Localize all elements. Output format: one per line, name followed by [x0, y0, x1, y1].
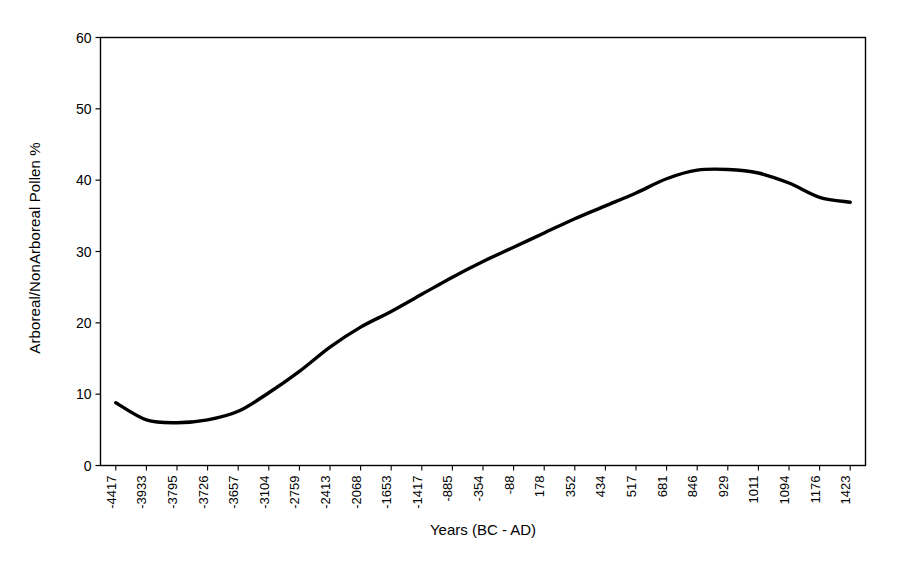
plot-area: 0102030405060 -4417-3933-3795-3726-3657-… [0, 0, 897, 568]
plot-frame [101, 38, 866, 466]
x-tick-label: 681 [655, 476, 670, 498]
x-tick-label: 517 [624, 476, 639, 498]
x-tick-label: -2413 [318, 476, 333, 509]
y-tick-label: 60 [76, 30, 92, 46]
y-tick-label: 20 [76, 315, 92, 331]
x-tick-label: -885 [440, 476, 455, 502]
x-axis-ticks: -4417-3933-3795-3726-3657-3104-2759-2413… [104, 466, 853, 509]
x-tick-label: -3795 [165, 476, 180, 509]
x-tick-label: 352 [563, 476, 578, 498]
x-tick-label: -354 [471, 476, 486, 502]
y-axis-ticks: 0102030405060 [76, 30, 101, 474]
x-tick-label: 178 [532, 476, 547, 498]
x-tick-label: -3726 [196, 476, 211, 509]
x-axis-title: Years (BC - AD) [100, 521, 866, 538]
x-tick-label: -4417 [104, 476, 119, 509]
x-tick-label: -2759 [287, 476, 302, 509]
x-tick-label: -1417 [410, 476, 425, 509]
x-tick-label: 1423 [838, 476, 853, 505]
x-tick-label: -3104 [257, 476, 272, 509]
x-tick-label: -88 [502, 476, 517, 495]
x-tick-label: 1011 [746, 476, 761, 504]
x-tick-label: 1176 [808, 476, 823, 504]
x-tick-label: 1094 [777, 476, 792, 505]
y-axis-title: Arboreal/NonArboreal Pollen % [22, 18, 48, 478]
x-tick-label: 929 [716, 476, 731, 498]
y-tick-label: 40 [76, 172, 92, 188]
y-tick-label: 30 [76, 244, 92, 260]
x-tick-label: -2068 [349, 476, 364, 509]
y-tick-label: 0 [84, 458, 92, 474]
x-tick-label: 846 [685, 476, 700, 498]
y-tick-label: 10 [76, 386, 92, 402]
x-tick-label: -1653 [379, 476, 394, 509]
y-tick-label: 50 [76, 101, 92, 117]
x-tick-label: -3657 [226, 476, 241, 509]
x-tick-label: -3933 [134, 476, 149, 509]
x-tick-label: 434 [593, 476, 608, 498]
pollen-line-chart: Arboreal/NonArboreal Pollen % 0102030405… [0, 0, 897, 568]
